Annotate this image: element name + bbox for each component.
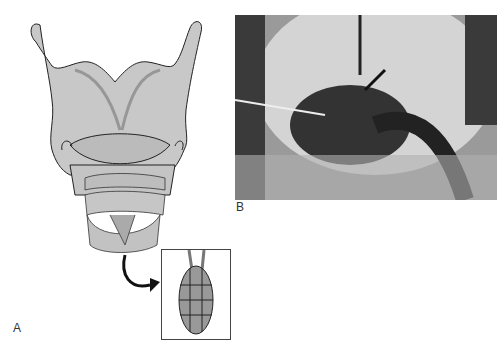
graft-inset bbox=[161, 249, 231, 340]
panel-label-b: B bbox=[236, 200, 244, 214]
surgical-photo bbox=[235, 15, 497, 200]
panel-label-a: A bbox=[13, 321, 21, 335]
